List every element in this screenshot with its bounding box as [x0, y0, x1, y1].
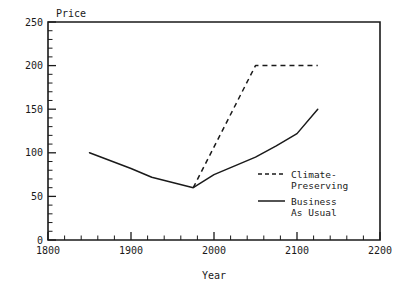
line-chart: 050100150200250 18001900200021002200 Pri…	[0, 0, 402, 296]
y-tick-label: 150	[25, 104, 43, 115]
x-axis-title: Year	[202, 270, 226, 281]
x-axis-ticks	[48, 232, 380, 240]
y-tick-label: 50	[31, 191, 43, 202]
legend-label-climate-preserving-line2: Preserving	[291, 180, 348, 191]
chart-container: 050100150200250 18001900200021002200 Pri…	[0, 0, 402, 296]
chart-legend: Climate- Preserving Business As Usual	[258, 169, 348, 218]
legend-label-business-as-usual-line1: Business	[291, 196, 337, 207]
y-tick-label: 100	[25, 147, 43, 158]
y-tick-label: 200	[25, 60, 43, 71]
y-axis-ticks	[48, 22, 56, 240]
x-tick-label: 2200	[368, 245, 392, 256]
y-axis-tick-labels: 050100150200250	[25, 17, 43, 246]
x-tick-label: 2000	[202, 245, 226, 256]
x-tick-label: 2100	[285, 245, 309, 256]
legend-label-business-as-usual-line2: As Usual	[291, 207, 337, 218]
data-series-group	[90, 66, 318, 188]
y-tick-label: 0	[37, 235, 43, 246]
x-axis-tick-labels: 18001900200021002200	[36, 245, 392, 256]
x-tick-label: 1800	[36, 245, 60, 256]
x-tick-label: 1900	[119, 245, 143, 256]
y-tick-label: 250	[25, 17, 43, 28]
series-business-as-usual	[90, 109, 318, 187]
y-axis-title: Price	[56, 8, 86, 19]
legend-label-climate-preserving-line1: Climate-	[291, 169, 337, 180]
